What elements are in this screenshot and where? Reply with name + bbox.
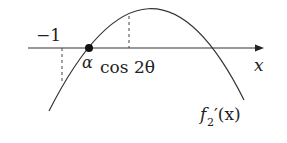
label-minus-one: −1: [36, 25, 61, 45]
alpha-point: [85, 44, 93, 52]
label-x-axis: x: [254, 55, 264, 75]
label-alpha: α: [82, 53, 93, 72]
label-curve: f 2 ′(x): [198, 104, 241, 129]
label-cos2theta: cos 2θ: [100, 57, 155, 77]
curve-label-suffix: ′(x): [214, 104, 241, 124]
x-axis-arrow-icon: [255, 45, 264, 52]
curve-label-subscript: 2: [207, 116, 214, 129]
graph-canvas: −1 α cos 2θ x f 2 ′(x): [0, 0, 287, 143]
